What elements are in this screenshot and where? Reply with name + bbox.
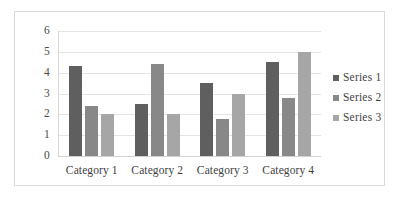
legend-swatch-icon-series-2 (333, 95, 339, 101)
bar-group-4 (256, 31, 322, 156)
bar-group-1 (59, 31, 125, 156)
y-tick-label-0: 0 (23, 150, 55, 162)
bar-4-series-2[interactable] (282, 98, 295, 156)
bar-3-series-2[interactable] (216, 119, 229, 157)
bar-1-series-1[interactable] (69, 66, 82, 156)
legend-item-series-2[interactable]: Series 2 (333, 88, 401, 108)
legend-label-series-1: Series 1 (343, 72, 381, 84)
bar-4-series-1[interactable] (266, 62, 279, 156)
legend-label-series-2: Series 2 (343, 92, 381, 104)
bar-4-series-3[interactable] (298, 52, 311, 156)
y-tick-label-4: 4 (23, 67, 55, 79)
legend-swatch-icon-series-1 (333, 75, 339, 81)
chart-frame: 0123456 Category 1Category 2Category 3Ca… (14, 11, 385, 186)
y-tick-label-6: 6 (23, 25, 55, 37)
y-tick-label-1: 1 (23, 129, 55, 141)
bar-1-series-3[interactable] (101, 114, 114, 156)
x-tick-label-1: Category 1 (59, 165, 125, 177)
bar-group-2 (125, 31, 191, 156)
plot-area (59, 31, 321, 156)
y-tick-label-2: 2 (23, 109, 55, 121)
legend-swatch-icon-series-3 (333, 115, 339, 121)
x-tick-label-3: Category 3 (190, 165, 256, 177)
bar-3-series-1[interactable] (200, 83, 213, 156)
legend-item-series-1[interactable]: Series 1 (333, 68, 401, 88)
bar-2-series-1[interactable] (135, 104, 148, 156)
x-tick-label-4: Category 4 (256, 165, 322, 177)
legend-label-series-3: Series 3 (343, 112, 381, 124)
y-tick-label-5: 5 (23, 46, 55, 58)
bar-2-series-2[interactable] (151, 64, 164, 156)
bar-2-series-3[interactable] (167, 114, 180, 156)
x-tick-label-2: Category 2 (125, 165, 191, 177)
gridline-0 (59, 156, 321, 157)
bars-layer (59, 31, 321, 156)
chart-legend: Series 1Series 2Series 3 (333, 68, 401, 128)
legend-item-series-3[interactable]: Series 3 (333, 108, 401, 128)
y-tick-label-3: 3 (23, 88, 55, 100)
bar-3-series-3[interactable] (232, 94, 245, 157)
bar-group-3 (190, 31, 256, 156)
bar-1-series-2[interactable] (85, 106, 98, 156)
